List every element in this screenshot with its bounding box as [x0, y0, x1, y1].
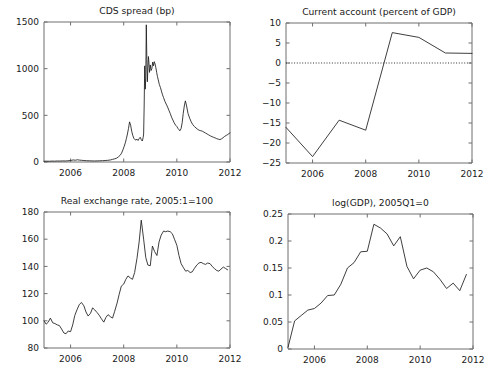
cds-axis-frame — [44, 22, 230, 162]
real-exchange-rate-y-tick-label: 180 — [22, 207, 39, 217]
real-exchange-rate-y-tick-label: 80 — [28, 343, 40, 353]
cds-title: CDS spread (bp) — [99, 5, 174, 16]
log-gdp-x-tick-label: 2008 — [356, 355, 379, 365]
current-account-x-tick-label: 2010 — [407, 169, 430, 179]
cds-y-tick-label: 0 — [33, 157, 39, 167]
log-gdp-y-tick-label: 0.25 — [263, 209, 283, 219]
real-exchange-rate-x-tick-label: 2008 — [112, 354, 135, 364]
log-gdp-x-tick-label: 2010 — [409, 355, 432, 365]
log-gdp-y-tick-label: 0.2 — [269, 236, 283, 246]
current-account-y-tick-label: −5 — [268, 78, 281, 88]
log-gdp-axis-frame — [288, 214, 473, 349]
current-account-chart: Current account (percent of GDP)−25−20−1… — [246, 0, 492, 189]
cds-series-line — [44, 25, 230, 161]
current-account-y-tick-label: 0 — [275, 58, 281, 68]
cds-y-tick-label: 1500 — [16, 17, 39, 27]
log-gdp-x-tick-label: 2012 — [462, 355, 485, 365]
current-account-y-tick-label: −10 — [262, 98, 281, 108]
current-account-x-tick-label: 2006 — [301, 169, 324, 179]
real-exchange-rate-x-tick-label: 2006 — [59, 354, 82, 364]
current-account-axis-frame — [286, 23, 472, 163]
real-exchange-rate-x-tick-label: 2012 — [219, 354, 242, 364]
current-account-y-tick-label: 10 — [270, 18, 282, 28]
log-gdp-series-line — [288, 224, 466, 347]
current-account-y-tick-label: 5 — [275, 38, 281, 48]
real-exchange-rate-y-tick-label: 100 — [22, 316, 39, 326]
current-account-y-tick-label: −20 — [262, 138, 281, 148]
real-exchange-rate-series-line — [44, 220, 228, 334]
four-panel-figure: CDS spread (bp)0500100015002006200820102… — [0, 0, 492, 378]
real-exchange-rate-y-tick-label: 120 — [22, 289, 39, 299]
real-exchange-rate-x-tick-label: 2010 — [165, 354, 188, 364]
real-exchange-rate-y-tick-label: 140 — [22, 262, 39, 272]
log-gdp-chart: log(GDP), 2005Q1=000.050.10.150.20.25200… — [246, 189, 492, 378]
real-exchange-rate-chart: Real exchange rate, 2005:1=1008010012014… — [0, 189, 246, 378]
cds-x-tick-label: 2012 — [219, 168, 242, 178]
log-gdp-y-tick-label: 0.1 — [269, 290, 283, 300]
cds-x-tick-label: 2008 — [112, 168, 135, 178]
cds-y-tick-label: 1000 — [16, 64, 39, 74]
panel-cds-spread: CDS spread (bp)0500100015002006200820102… — [0, 0, 246, 189]
log-gdp-y-tick-label: 0.05 — [263, 317, 283, 327]
current-account-x-tick-label: 2012 — [461, 169, 484, 179]
cds-spread-chart: CDS spread (bp)0500100015002006200820102… — [0, 0, 246, 189]
panel-log-gdp: log(GDP), 2005Q1=000.050.10.150.20.25200… — [246, 189, 492, 378]
panel-real-exchange-rate: Real exchange rate, 2005:1=1008010012014… — [0, 189, 246, 378]
log-gdp-y-tick-label: 0.15 — [263, 263, 283, 273]
current-account-series-line — [286, 33, 472, 157]
cds-x-tick-label: 2006 — [59, 168, 82, 178]
current-account-y-tick-label: −25 — [262, 158, 281, 168]
current-account-y-tick-label: −15 — [262, 118, 281, 128]
log-gdp-title: log(GDP), 2005Q1=0 — [332, 197, 429, 208]
current-account-x-tick-label: 2008 — [354, 169, 377, 179]
real-exchange-rate-y-tick-label: 160 — [22, 234, 39, 244]
cds-y-tick-label: 500 — [22, 111, 39, 121]
real-exchange-rate-title: Real exchange rate, 2005:1=100 — [61, 195, 213, 206]
current-account-title: Current account (percent of GDP) — [302, 6, 456, 17]
cds-x-tick-label: 2010 — [165, 168, 188, 178]
panel-current-account: Current account (percent of GDP)−25−20−1… — [246, 0, 492, 189]
log-gdp-y-tick-label: 0 — [277, 344, 283, 354]
log-gdp-x-tick-label: 2006 — [303, 355, 326, 365]
